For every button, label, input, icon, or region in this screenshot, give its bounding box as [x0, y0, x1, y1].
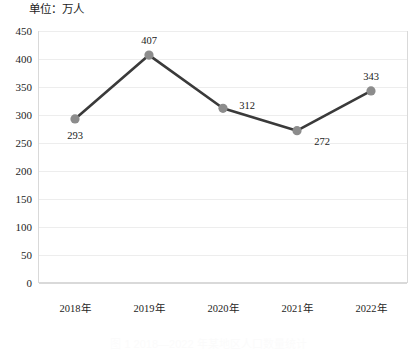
chart-unit-title: 单位：万人: [29, 1, 84, 17]
y-tick-label-450: 450: [0, 26, 32, 37]
gridline-100: [39, 227, 407, 228]
data-label-2019年: 407: [141, 35, 157, 46]
data-label-2020年: 312: [239, 100, 255, 111]
y-tick-label-0: 0: [0, 278, 32, 289]
x-tick-label-2019年: 2019年: [114, 303, 184, 315]
x-tick-label-2018年: 2018年: [40, 303, 110, 315]
figure-caption: 图 1 2018—2022 年某地区人口数量统计: [0, 338, 417, 351]
x-tick-label-2020年: 2020年: [188, 303, 258, 315]
y-tick-label-350: 350: [0, 82, 32, 93]
x-tick-label-2021年: 2021年: [262, 303, 332, 315]
gridline-150: [39, 199, 407, 200]
gridline-350: [39, 87, 407, 88]
gridline-200: [39, 171, 407, 172]
y-tick-label-300: 300: [0, 110, 32, 121]
gridline-50: [39, 255, 407, 256]
gridline-450: [39, 31, 407, 32]
gridline-400: [39, 59, 407, 60]
gridline-0: [39, 283, 407, 284]
y-tick-label-400: 400: [0, 54, 32, 65]
gridline-250: [39, 143, 407, 144]
y-tick-label-200: 200: [0, 166, 32, 177]
data-label-2018年: 293: [67, 129, 83, 140]
y-tick-label-250: 250: [0, 138, 32, 149]
y-tick-label-100: 100: [0, 222, 32, 233]
y-tick-label-150: 150: [0, 194, 32, 205]
x-tick-label-2022年: 2022年: [336, 303, 406, 315]
plot-area: [38, 31, 408, 283]
data-label-2021年: 272: [314, 135, 330, 146]
gridline-300: [39, 115, 407, 116]
data-label-2022年: 343: [363, 70, 379, 81]
y-tick-label-50: 50: [0, 250, 32, 261]
